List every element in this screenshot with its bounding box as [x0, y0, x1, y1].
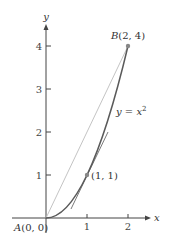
- point-p-marker: [85, 173, 89, 177]
- y-tick-label-2: 2: [36, 127, 42, 138]
- figure-canvas: 1 2 1 2 3 4 x y B(2, 4) (1, 1) A(0, 0) y…: [0, 0, 172, 242]
- secant-line-ab: [46, 46, 128, 218]
- y-tick-label-4: 4: [36, 41, 42, 52]
- point-p-label: (1, 1): [91, 170, 118, 181]
- point-b-marker: [126, 44, 130, 48]
- y-axis-arrow-icon: [44, 24, 49, 30]
- point-b-label: B(2, 4): [110, 30, 145, 41]
- x-axis-label: x: [154, 212, 160, 223]
- y-axis-label: y: [42, 11, 49, 22]
- y-tick-label-1: 1: [36, 170, 42, 181]
- curve-label: y = x2: [115, 105, 147, 117]
- point-a-label: A(0, 0): [13, 222, 48, 233]
- x-ticks: [87, 214, 128, 218]
- y-tick-label-3: 3: [36, 84, 42, 95]
- y-ticks: [46, 46, 51, 175]
- x-tick-label-2: 2: [125, 221, 131, 232]
- x-axis-arrow-icon: [145, 216, 151, 221]
- x-tick-label-1: 1: [84, 221, 90, 232]
